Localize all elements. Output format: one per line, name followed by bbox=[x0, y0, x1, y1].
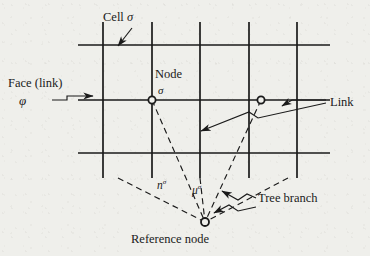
reference-node-marker bbox=[201, 218, 209, 226]
cell-label: Cell σ bbox=[103, 11, 133, 24]
mu-sigma-label: μσ bbox=[192, 184, 201, 196]
n-superscript: σ bbox=[163, 178, 167, 186]
cell-label-symbol: σ bbox=[127, 10, 133, 24]
node-symbol-label: σ bbox=[158, 85, 163, 96]
node-label-text: Node bbox=[155, 67, 182, 81]
tree-branch-label-text: Tree branch bbox=[258, 191, 318, 205]
face-symbol-label: φ bbox=[19, 94, 26, 107]
node-marker-right bbox=[257, 96, 264, 103]
link-label: Link bbox=[330, 96, 354, 109]
diagram-svg bbox=[0, 0, 370, 256]
face-label-text: Face (link) bbox=[8, 76, 63, 90]
node-marker-sigma bbox=[148, 96, 155, 103]
cell-leader-arrow bbox=[118, 28, 132, 46]
mu-superscript: σ bbox=[198, 183, 202, 191]
reference-node-label: Reference node bbox=[131, 233, 209, 246]
tree-branch-label: Tree branch bbox=[258, 192, 318, 205]
node-marker-group bbox=[148, 96, 264, 226]
tree-leader-arrow-a bbox=[222, 191, 256, 200]
n-sigma-label: nσ bbox=[157, 179, 166, 191]
face-label: Face (link) bbox=[8, 77, 63, 90]
link-leader-arrow-a bbox=[282, 100, 326, 106]
reference-node-label-text: Reference node bbox=[131, 232, 209, 246]
tree-leader-arrow-b bbox=[214, 205, 256, 213]
link-leader-arrow-b bbox=[201, 103, 326, 131]
figure-canvas: Cell σ Face (link) φ Node σ Link nσ μσ T… bbox=[0, 0, 370, 256]
link-label-text: Link bbox=[330, 95, 354, 109]
cell-label-text: Cell bbox=[103, 10, 124, 24]
node-label: Node bbox=[155, 68, 182, 81]
tree-branch bbox=[152, 100, 205, 222]
